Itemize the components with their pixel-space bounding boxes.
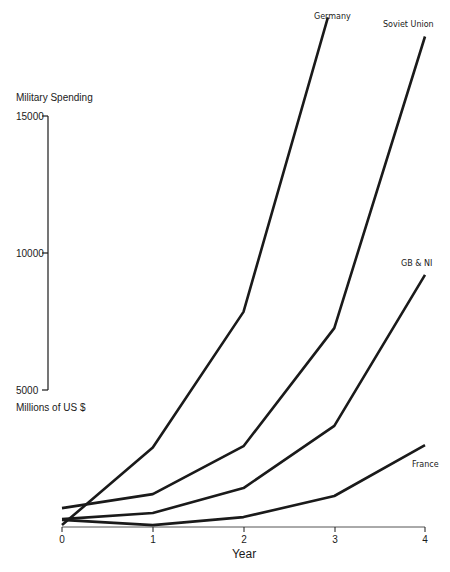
x-tick-0: 0	[59, 534, 65, 545]
y-axis: Military Spending 15000 10000 5000 Milli…	[16, 92, 93, 413]
series-label-soviet-union: Soviet Union	[383, 20, 434, 29]
line-chart: Military Spending 15000 10000 5000 Milli…	[0, 0, 450, 572]
series-line-soviet-union	[62, 37, 425, 509]
series-line-france	[62, 445, 425, 525]
y-tick-10000: 10000	[16, 248, 44, 259]
y-tick-5000: 5000	[16, 385, 39, 396]
series-line-germany	[62, 17, 328, 525]
x-tick-2: 2	[241, 534, 247, 545]
series-label-gb-ni: GB & NI	[401, 259, 432, 268]
x-axis-title: Year	[232, 547, 256, 561]
x-axis: 0 1 2 3 4 Year	[59, 527, 428, 561]
series-label-france: France	[412, 460, 439, 469]
y-tick-15000: 15000	[16, 111, 44, 122]
y-axis-units: Millions of US $	[16, 402, 86, 413]
series-label-germany: Germany	[314, 12, 351, 21]
x-tick-1: 1	[150, 534, 156, 545]
series-layer	[62, 17, 425, 525]
x-tick-4: 4	[422, 534, 428, 545]
y-axis-title: Military Spending	[16, 92, 93, 103]
x-tick-3: 3	[332, 534, 338, 545]
